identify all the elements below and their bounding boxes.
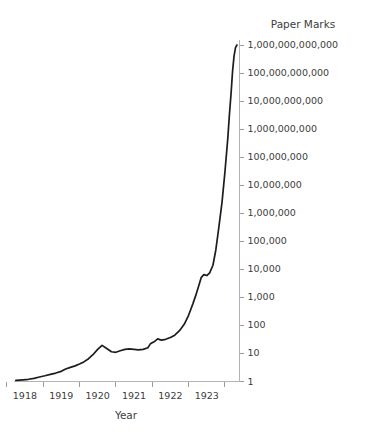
x-tick-label: 1923: [195, 390, 219, 401]
y-tick-label: 10,000,000: [248, 179, 302, 190]
y-tick-label: 100,000,000,000: [248, 67, 330, 78]
x-tick-label: 1919: [49, 390, 73, 401]
y-tick-label: 1,000: [248, 291, 275, 302]
x-tick-label: 1918: [13, 390, 37, 401]
y-tick-label: 10,000: [248, 263, 281, 274]
y-tick-label: 100,000: [248, 235, 287, 246]
y-tick-label: 10: [248, 347, 260, 358]
y-tick-label: 10,000,000,000: [248, 95, 324, 106]
series-line-paper-marks: [16, 45, 237, 380]
axis-lines: [14, 40, 240, 382]
x-axis-ticks: 191819191920192119221923: [7, 382, 225, 401]
y-axis-title: Paper Marks: [271, 18, 335, 30]
x-tick-label: 1922: [158, 390, 182, 401]
y-tick-label: 1: [248, 376, 254, 387]
x-axis-title: Year: [114, 409, 138, 421]
y-tick-label: 1,000,000: [248, 207, 296, 218]
y-tick-label: 1,000,000,000,000: [248, 39, 339, 50]
y-tick-label: 1,000,000,000: [248, 123, 318, 134]
series-group: [16, 45, 237, 380]
x-tick-label: 1920: [86, 390, 110, 401]
chart-container: Paper Marks 1,000,000,000,000100,000,000…: [0, 0, 368, 437]
x-tick-label: 1921: [122, 390, 146, 401]
y-tick-label: 100: [248, 319, 266, 330]
y-axis-ticks: 1,000,000,000,000100,000,000,00010,000,0…: [240, 39, 339, 387]
hyperinflation-line-chart: Paper Marks 1,000,000,000,000100,000,000…: [0, 0, 368, 437]
y-tick-label: 100,000,000: [248, 151, 308, 162]
